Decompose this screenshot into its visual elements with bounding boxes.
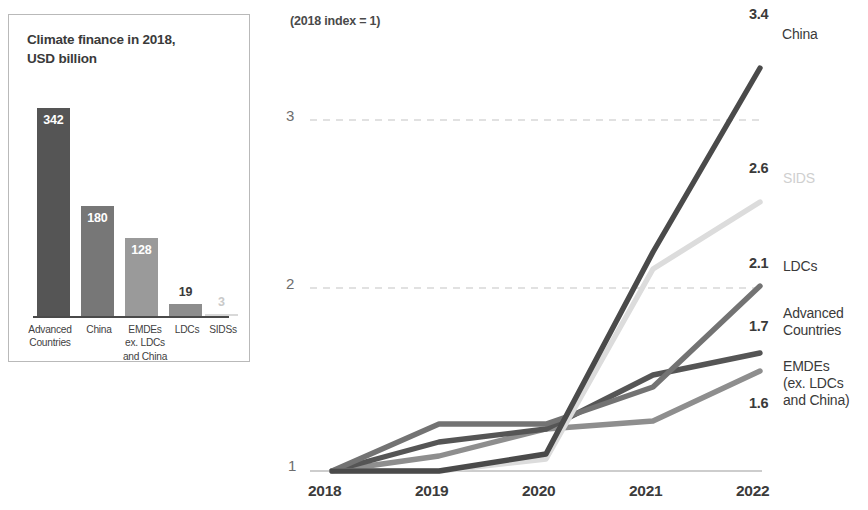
bar-value-label: 342: [37, 113, 70, 127]
label-line: SIDS: [783, 170, 815, 187]
label-line: and China: [117, 350, 173, 363]
label-line: EMDEs: [117, 323, 173, 336]
bar-xlabel-advanced-countries: Advanced Countries: [19, 323, 81, 350]
bar-chart-panel: Climate finance in 2018, USD billion 342…: [8, 14, 250, 362]
x-axis-tick-2021: 2021: [629, 482, 662, 500]
label-line: Countries: [783, 322, 844, 339]
line-chart-plot-area: [292, 8, 782, 474]
bar-xlabel-china: China: [79, 323, 119, 336]
bar-column-advanced-countries: 342: [37, 108, 70, 316]
label-line: China: [782, 26, 818, 43]
bar-value-label: 128: [125, 243, 158, 257]
label-line: and China): [783, 392, 850, 409]
bar-value-label: 19: [169, 285, 202, 299]
bar-column-sidss: 3: [205, 314, 238, 316]
x-axis-tick-2018: 2018: [308, 482, 341, 500]
series-line-ldcs: [332, 286, 760, 471]
series-end-value-china: 3.4: [749, 6, 768, 22]
label-line: ex. LDCs: [117, 336, 173, 349]
x-axis-tick-2019: 2019: [415, 482, 448, 500]
bar-rect: 128: [125, 238, 158, 316]
bar-rect: 342: [37, 108, 70, 316]
series-end-label-advanced-countries: Advanced Countries: [783, 305, 844, 339]
bar-chart-title-line2: USD billion: [27, 50, 232, 69]
series-end-label-china: China: [782, 26, 818, 43]
series-end-value-advanced-countries: 1.7: [749, 318, 768, 334]
x-axis-tick-2022: 2022: [736, 482, 769, 500]
series-end-label-ldcs: LDCs: [783, 258, 817, 275]
bar-chart-axis-line: [33, 316, 229, 318]
series-end-label-emdes: EMDEs (ex. LDCs and China): [783, 358, 850, 408]
bar-column-china: 180: [81, 206, 114, 316]
label-line: SIDSs: [203, 323, 243, 336]
label-line: EMDEs: [783, 358, 850, 375]
bar-chart-plot-area: 342 180 128 19 3: [33, 93, 229, 318]
bar-chart-title-line1: Climate finance in 2018,: [27, 31, 232, 50]
bar-xlabel-emdes: EMDEs ex. LDCs and China: [117, 323, 173, 363]
label-line: Countries: [19, 336, 81, 349]
label-line: LDCs: [783, 258, 817, 275]
bar-column-ldcs: 19: [169, 304, 202, 316]
label-line: China: [79, 323, 119, 336]
bar-rect: 180: [81, 206, 114, 316]
bar-rect: 3: [205, 314, 238, 316]
bar-column-emdes: 128: [125, 238, 158, 316]
bar-value-label: 3: [205, 295, 238, 309]
bar-rect: 19: [169, 304, 202, 316]
x-axis-tick-2020: 2020: [522, 482, 555, 500]
label-line: Advanced: [783, 305, 844, 322]
bar-xlabel-sidss: SIDSs: [203, 323, 243, 336]
series-line-china: [332, 68, 760, 471]
series-end-value-sids: 2.6: [749, 160, 768, 176]
series-end-value-ldcs: 2.1: [749, 255, 768, 271]
bar-xlabel-ldcs: LDCs: [169, 323, 205, 336]
label-line: Advanced: [19, 323, 81, 336]
label-line: (ex. LDCs: [783, 375, 850, 392]
series-end-label-sids: SIDS: [783, 170, 815, 187]
bar-value-label: 180: [81, 211, 114, 225]
line-chart-panel: (2018 index = 1) 3 2 1 2018 2019 2020 20…: [252, 0, 868, 510]
bar-chart-title: Climate finance in 2018, USD billion: [27, 31, 232, 68]
label-line: LDCs: [169, 323, 205, 336]
series-end-value-emdes: 1.6: [749, 395, 768, 411]
